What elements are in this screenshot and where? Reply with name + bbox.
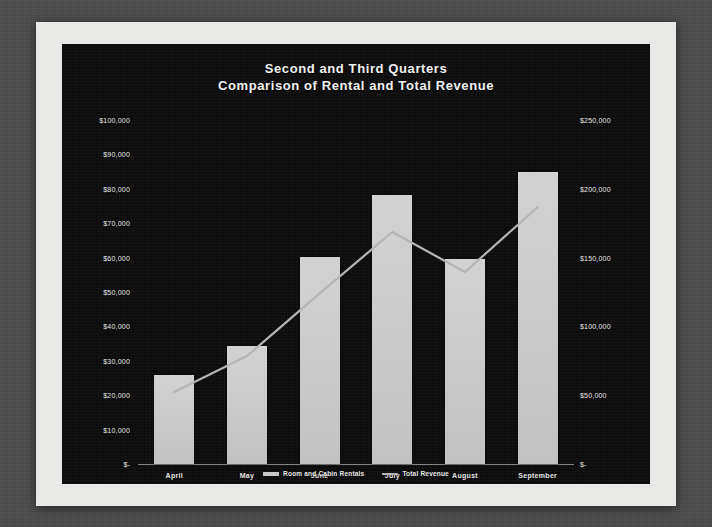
right-axis-tick: $250,000	[580, 117, 611, 124]
bar[interactable]	[154, 375, 194, 464]
left-axis-tick: $30,000	[103, 357, 130, 364]
left-axis-tick: $-	[123, 461, 130, 468]
left-axis: $-$10,000$20,000$30,000$40,000$50,000$60…	[70, 44, 130, 484]
left-axis-tick: $70,000	[103, 220, 130, 227]
legend-bar-swatch-icon	[263, 472, 279, 476]
legend-label: Total Revenue	[402, 470, 449, 477]
left-axis-tick: $20,000	[103, 392, 130, 399]
bar[interactable]	[445, 259, 485, 464]
legend-item[interactable]: Total Revenue	[382, 470, 449, 477]
right-axis-tick: $150,000	[580, 254, 611, 261]
bar[interactable]	[227, 346, 267, 464]
right-axis-tick: $200,000	[580, 185, 611, 192]
left-axis-tick: $100,000	[99, 117, 130, 124]
right-axis: $-$50,000$100,000$150,000$200,000$250,00…	[580, 44, 644, 484]
bar-slot: September	[501, 44, 574, 464]
chart-legend: Room and Cabin RentalsTotal Revenue	[62, 470, 650, 477]
paper-sheet: Second and Third Quarters Comparison of …	[36, 22, 676, 506]
left-axis-tick: $50,000	[103, 289, 130, 296]
bar-slot: July	[356, 44, 429, 464]
left-axis-tick: $10,000	[103, 426, 130, 433]
bar-slot: May	[211, 44, 284, 464]
bar-slot: April	[138, 44, 211, 464]
legend-item[interactable]: Room and Cabin Rentals	[263, 470, 364, 477]
legend-label: Room and Cabin Rentals	[283, 470, 364, 477]
axis-baseline	[138, 464, 574, 465]
left-axis-tick: $90,000	[103, 151, 130, 158]
bar-slot: August	[429, 44, 502, 464]
right-axis-tick: $100,000	[580, 323, 611, 330]
right-axis-tick: $50,000	[580, 392, 607, 399]
bar[interactable]	[300, 257, 340, 464]
right-axis-tick: $-	[580, 461, 587, 468]
left-axis-tick: $80,000	[103, 185, 130, 192]
bar-slot: June	[283, 44, 356, 464]
left-axis-tick: $60,000	[103, 254, 130, 261]
bar[interactable]	[518, 172, 558, 464]
bar[interactable]	[372, 195, 412, 464]
bar-series-room-and-cabin-rentals: AprilMayJuneJulyAugustSeptember	[138, 44, 574, 464]
chart-plot-area: Second and Third Quarters Comparison of …	[62, 44, 650, 484]
legend-line-swatch-icon	[382, 473, 398, 475]
left-axis-tick: $40,000	[103, 323, 130, 330]
